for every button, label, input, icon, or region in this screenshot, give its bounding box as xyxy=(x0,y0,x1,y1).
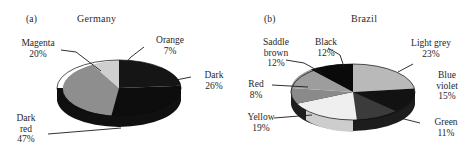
label-light-grey: Light grey 23% xyxy=(396,38,466,59)
label-light-grey-name: Light grey xyxy=(396,38,466,49)
label-blue-violet: Blue violet 15% xyxy=(424,70,470,102)
label-saddle-brown-pct: 12% xyxy=(250,58,302,69)
label-orange-name: Orange xyxy=(146,35,194,46)
label-saddle-brown-name1: Saddle xyxy=(250,37,302,48)
label-magenta: Magenta 20% xyxy=(8,38,68,59)
label-green-name: Green xyxy=(422,117,470,128)
label-dark-red-name2: red xyxy=(6,124,46,135)
label-yellow: Yellow 19% xyxy=(239,112,283,133)
germany-slice-dark xyxy=(119,60,181,88)
label-orange-pct: 7% xyxy=(146,46,194,57)
label-red-pct: 8% xyxy=(240,90,272,101)
label-dark-name: Dark xyxy=(194,70,234,81)
pie-chart-figure: (a) Germany xyxy=(0,0,476,157)
label-yellow-pct: 19% xyxy=(239,123,283,134)
brazil-leader-light-grey xyxy=(398,64,413,72)
label-green-pct: 11% xyxy=(422,128,470,139)
label-red-name: Red xyxy=(240,79,272,90)
germany-chart-area: Magenta 20% Orange 7% Dark 26% Dark red … xyxy=(0,0,238,157)
label-red: Red 8% xyxy=(240,79,272,100)
label-light-grey-pct: 23% xyxy=(396,49,466,60)
label-dark: Dark 26% xyxy=(194,70,234,91)
label-blue-violet-name1: Blue xyxy=(424,70,470,81)
germany-leader-dark-red xyxy=(48,128,121,134)
brazil-chart-area: Saddle brown 12% Black 12% Light grey 23… xyxy=(238,0,476,157)
label-black: Black 12% xyxy=(306,37,346,58)
label-dark-red: Dark red 47% xyxy=(6,113,46,145)
label-dark-pct: 26% xyxy=(194,81,234,92)
label-black-name: Black xyxy=(306,37,346,48)
panel-germany: (a) Germany xyxy=(0,0,238,157)
label-blue-violet-name2: violet xyxy=(424,81,470,92)
label-black-pct: 12% xyxy=(306,48,346,59)
label-saddle-brown-name2: brown xyxy=(250,48,302,59)
label-yellow-name: Yellow xyxy=(239,112,283,123)
label-blue-violet-pct: 15% xyxy=(424,91,470,102)
label-saddle-brown: Saddle brown 12% xyxy=(250,37,302,69)
label-green: Green 11% xyxy=(422,117,470,138)
label-dark-red-pct: 47% xyxy=(6,134,46,145)
label-magenta-pct: 20% xyxy=(8,49,68,60)
germany-leader-dark xyxy=(176,77,191,80)
label-magenta-name: Magenta xyxy=(8,38,68,49)
label-dark-red-name1: Dark xyxy=(6,113,46,124)
label-orange: Orange 7% xyxy=(146,35,194,56)
panel-brazil: (b) Brazil xyxy=(238,0,476,157)
